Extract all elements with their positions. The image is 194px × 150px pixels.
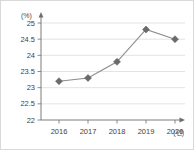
x-tick-label-2017: 2017	[80, 127, 97, 136]
x-axis-unit-label: (년)	[173, 128, 184, 137]
y-tick-label-22: 22	[27, 116, 35, 125]
y-axis-arrow-icon	[39, 12, 44, 18]
y-tick-label-23-5: 23.5	[20, 67, 35, 76]
x-tick-label-2018: 2018	[109, 127, 126, 136]
x-tick-label-2016: 2016	[51, 127, 68, 136]
y-tick-label-24: 24	[27, 51, 35, 60]
data-point-2020	[172, 36, 179, 43]
y-tick-label-24-5: 24.5	[20, 35, 35, 44]
x-axis	[41, 118, 185, 124]
x-tick-labels: 2016 2017 2018 2019 2020	[51, 127, 184, 136]
line-chart-figure: (%) 25 24.5 24 23.5 23 22.5 22 2016 2017…	[0, 0, 194, 150]
y-tick-label-25: 25	[27, 19, 35, 28]
x-axis-arrow-icon	[180, 118, 186, 123]
y-tick-label-22-5: 22.5	[20, 99, 35, 108]
data-point-2017	[85, 75, 92, 82]
x-tick-label-2019: 2019	[138, 127, 155, 136]
y-tick-label-23: 23	[27, 83, 35, 92]
chart-canvas: (%) 25 24.5 24 23.5 23 22.5 22 2016 2017…	[1, 1, 193, 149]
y-tick-labels: 25 24.5 24 23.5 23 22.5 22	[20, 19, 35, 125]
data-point-2016	[56, 78, 63, 85]
